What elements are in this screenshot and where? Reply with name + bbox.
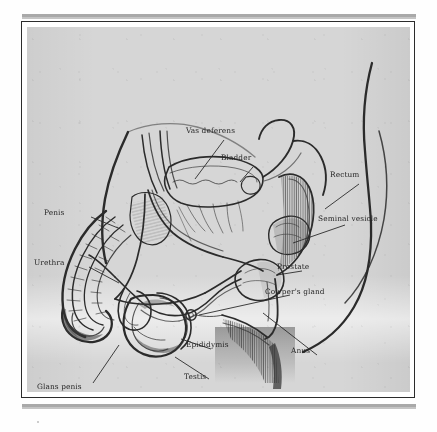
label-seminal-vesicle: Seminal vesicle [318,215,378,222]
scan-speck [37,421,39,423]
bladder [165,157,263,241]
anatomy-illustration [27,27,410,392]
abdominal-contour [102,124,255,263]
label-glans-penis: Glans penis [37,383,82,390]
urethra [89,255,241,321]
label-penis: Penis [44,209,64,216]
label-vas-deferens: Vas deferens [186,127,235,134]
label-anus: Anus [291,347,310,354]
bottom-rule [22,404,416,409]
label-prostate: Prostate [277,263,309,270]
top-rule [22,14,416,19]
figure-paper: Vas deferens Bladder Rectum Seminal vesi… [27,27,410,392]
label-rectum: Rectum [330,171,359,178]
body-contour [303,63,387,352]
label-cowpers-gland: Cowper's gland [265,288,325,295]
label-testis: Testis [184,373,206,380]
label-epididymis: Epididymis [186,341,229,348]
label-bladder: Bladder [221,154,251,161]
ureters [142,131,177,193]
label-urethra: Urethra [34,259,65,266]
figure-page: Vas deferens Bladder Rectum Seminal vesi… [0,0,437,432]
